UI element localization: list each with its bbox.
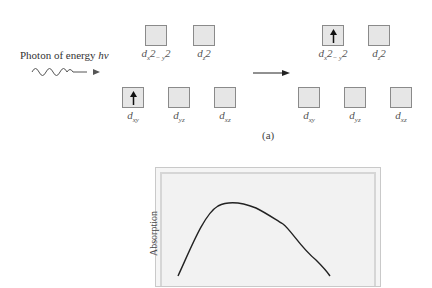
orbital-label-dz2-before: dz2 <box>184 47 224 62</box>
right-arrow-icon <box>252 68 292 78</box>
orbital-label-dxy-before: dxy <box>113 109 153 124</box>
photon-energy-symbol: hν <box>98 49 108 61</box>
orbital-box-dxy-before <box>122 87 144 108</box>
part-label: (a) <box>262 129 274 141</box>
absorption-chart <box>155 167 381 287</box>
orbital-box-dxz-before <box>214 87 236 108</box>
y-axis-label: Absorption <box>148 199 159 269</box>
orbital-label-dx2-y2-after: dx2− y2 <box>313 47 353 62</box>
orbital-label-dx2-y2-before: dx2− y2 <box>136 47 176 62</box>
photon-label: Photon of energy hν <box>20 49 109 61</box>
orbital-box-dx2-y2-before <box>145 25 167 46</box>
electron-up-arrow-icon <box>123 88 145 109</box>
orbital-label-dxy-after: dxy <box>289 109 329 124</box>
orbital-label-dyz-before: dyz <box>159 109 199 124</box>
orbital-box-dxy-after <box>298 87 320 108</box>
orbital-box-dyz-after <box>344 87 366 108</box>
photon-label-text: Photon of energy <box>20 49 98 61</box>
electron-up-arrow-icon <box>323 26 345 47</box>
orbital-box-dz2-after <box>368 25 390 46</box>
orbital-box-dx2-y2-after <box>322 25 344 46</box>
orbital-label-dz2-after: dz2 <box>359 47 399 62</box>
orbital-box-dz2-before <box>193 25 215 46</box>
orbital-box-dyz-before <box>168 87 190 108</box>
absorption-curve <box>156 168 382 288</box>
orbital-label-dxz-after: dxz <box>381 109 421 124</box>
wavy-arrow-icon <box>30 64 102 80</box>
orbital-label-dxz-before: dxz <box>205 109 245 124</box>
orbital-box-dxz-after <box>390 87 412 108</box>
orbital-label-dyz-after: dyz <box>335 109 375 124</box>
